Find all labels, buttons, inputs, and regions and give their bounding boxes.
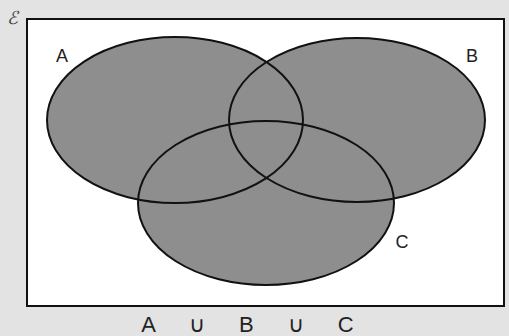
- set-a-label: A: [56, 46, 68, 66]
- set-c-label: C: [396, 232, 409, 252]
- universal-set-symbol: ℰ: [7, 9, 18, 27]
- diagram-caption: A ∪ B ∪ C: [0, 314, 509, 336]
- set-b-label: B: [466, 46, 478, 66]
